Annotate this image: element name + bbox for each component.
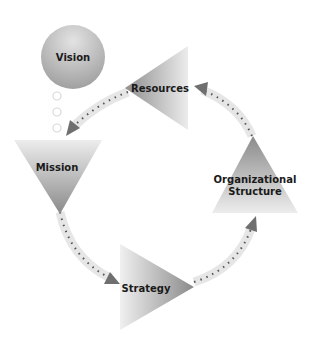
node-resources: Resources — [125, 46, 189, 130]
node-vision: Vision — [41, 25, 105, 89]
org-label-line2: Structure — [228, 186, 282, 197]
node-strategy: Strategy — [120, 244, 194, 330]
arrow-org-to-resources — [194, 82, 252, 136]
arrow-strategy-to-org — [194, 216, 257, 282]
resources-label: Resources — [131, 83, 189, 94]
org-label-line1: Organizational — [214, 174, 297, 185]
node-mission: Mission — [14, 140, 102, 214]
vision-label: Vision — [56, 52, 90, 63]
mission-label: Mission — [36, 162, 79, 173]
vision-to-mission-dots — [53, 92, 61, 132]
arrow-mission-to-strategy — [60, 212, 120, 284]
strategy-label: Strategy — [122, 283, 171, 294]
arrow-resources-to-mission — [66, 92, 128, 136]
node-org-structure: Organizational Structure — [212, 136, 298, 213]
cycle-diagram: Vision Resources Mission Strategy Organi… — [0, 0, 313, 340]
